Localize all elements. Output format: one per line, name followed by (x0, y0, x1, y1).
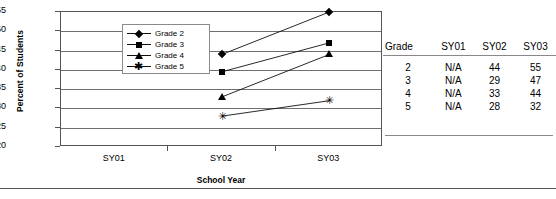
series-line (222, 43, 329, 72)
y-tick-label: 35 (0, 83, 6, 92)
legend-item: Grade 3 (126, 39, 206, 50)
data-table: Grade SY01 SY02 SY03 2N/A44553N/A29474N/… (383, 40, 556, 113)
series-line (222, 101, 329, 116)
legend-label: Grade 4 (152, 50, 184, 61)
data-point-triangle (325, 50, 333, 57)
plot-area: ✳✳ Grade 2 Grade 3 (60, 11, 382, 146)
table-row: 5N/A2832 (383, 100, 556, 113)
table-cell: 32 (515, 100, 556, 113)
series-lines (61, 12, 383, 147)
page-bottom-rule (0, 188, 556, 189)
legend-marker-diamond-icon (126, 28, 152, 39)
table-cell: N/A (433, 74, 474, 87)
table-cell: 28 (474, 100, 515, 113)
table-header-cell: SY02 (474, 40, 515, 55)
line-chart: Percent of Students 5550454035302520 ✳✳ … (0, 0, 390, 199)
table-header-cell: SY03 (515, 40, 556, 55)
x-tick-label: SY01 (74, 153, 154, 163)
table-row: 4N/A3344 (383, 87, 556, 100)
y-tick-label: 55 (0, 6, 6, 15)
table-cell: N/A (433, 61, 474, 74)
y-tick-label: 25 (0, 122, 6, 131)
series-line (222, 54, 329, 96)
table-row: 2N/A4455 (383, 61, 556, 74)
table-cell: 47 (515, 74, 556, 87)
table-cell: 2 (383, 61, 433, 74)
legend-label: Grade 5 (152, 61, 184, 72)
data-table-block: Grade SY01 SY02 SY03 2N/A44553N/A29474N/… (383, 40, 556, 138)
x-axis-title: School Year (60, 175, 382, 185)
chart-legend: Grade 2 Grade 3 Grade 4 (122, 24, 210, 74)
table-cell: 44 (515, 87, 556, 100)
x-tick-mark (167, 146, 168, 151)
series-line (222, 12, 329, 54)
x-tick-label: SY03 (288, 153, 368, 163)
x-tick-label: SY02 (181, 153, 261, 163)
y-tick-label: 30 (0, 102, 6, 111)
legend-item: ✱ Grade 5 (126, 61, 206, 72)
legend-label: Grade 2 (152, 28, 184, 39)
table-cell: 3 (383, 74, 433, 87)
y-axis-title: Percent of Students (15, 6, 25, 136)
legend-marker-star-icon: ✱ (126, 61, 152, 72)
table-cell: 4 (383, 87, 433, 100)
data-point-triangle (218, 93, 226, 100)
table-row: 3N/A2947 (383, 74, 556, 87)
y-tick-label: 20 (0, 141, 6, 150)
table-cell: 33 (474, 87, 515, 100)
y-tick-label: 45 (0, 45, 6, 54)
table-header-cell: SY01 (433, 40, 474, 55)
table-header-cell: Grade (383, 40, 433, 55)
y-tick-mark (55, 146, 60, 147)
x-tick-mark (275, 146, 276, 151)
y-tick-label: 50 (0, 25, 6, 34)
legend-label: Grade 3 (152, 39, 184, 50)
table-cell: 55 (515, 61, 556, 74)
data-point-square (326, 40, 332, 46)
table-body: 2N/A44553N/A29474N/A33445N/A2832 (383, 61, 556, 113)
table-cell: N/A (433, 100, 474, 113)
table-bottom-rule (385, 135, 553, 136)
table-header-row: Grade SY01 SY02 SY03 (383, 40, 556, 55)
data-point-square (219, 69, 225, 75)
data-point-star: ✳ (325, 97, 334, 104)
table-cell: N/A (433, 87, 474, 100)
figure-root: Percent of Students 5550454035302520 ✳✳ … (0, 0, 556, 199)
legend-item: Grade 2 (126, 28, 206, 39)
data-point-star: ✳ (218, 113, 227, 120)
table-cell: 44 (474, 61, 515, 74)
y-tick-label: 40 (0, 64, 6, 73)
legend-marker-square-icon (126, 39, 152, 50)
table-cell: 5 (383, 100, 433, 113)
table-cell: 29 (474, 74, 515, 87)
